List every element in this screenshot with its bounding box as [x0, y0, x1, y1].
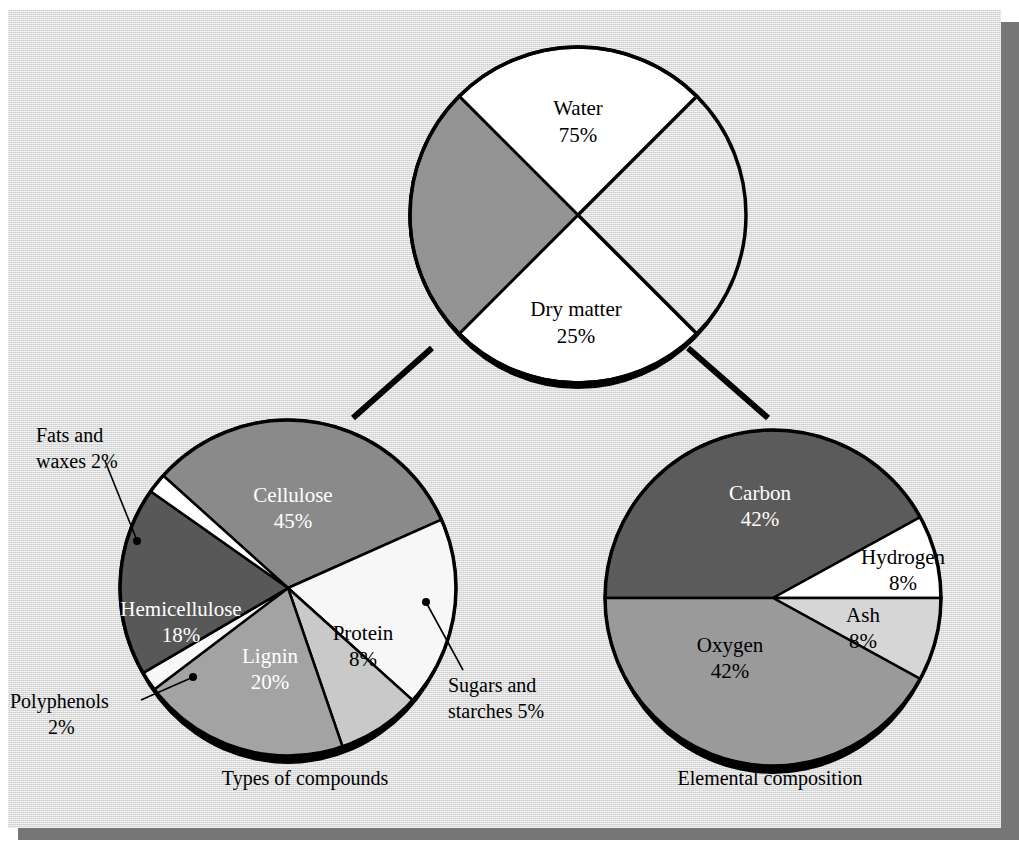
label-hemicellulose-value: 18% — [162, 623, 201, 647]
label-protein-value: 8% — [349, 647, 377, 671]
callout-fats-and-waxes: Fats and waxes 2% — [36, 424, 141, 545]
callout-polyphenols-line2: 2% — [48, 716, 75, 738]
callout-sugars-and-starches-line1: Sugars and — [448, 674, 536, 697]
label-dry-matter-value: 25% — [557, 324, 596, 348]
callout-line-fats-and-waxes — [105, 461, 136, 538]
callout-dot-sugars-and-starches — [422, 598, 430, 606]
callout-fats-and-waxes-line1: Fats and — [36, 424, 103, 446]
label-ash-value: 8% — [849, 629, 877, 653]
callout-dot-fats-and-waxes — [133, 537, 141, 545]
label-hemicellulose-name: Hemicellulose — [120, 597, 241, 621]
figure-root: Water 75% Dry matter 25% — [0, 0, 1019, 856]
label-water-name: Water — [553, 96, 603, 120]
label-oxygen-name: Oxygen — [697, 633, 764, 657]
label-water-value: 75% — [559, 123, 598, 147]
caption-types-of-compounds: Types of compounds — [222, 767, 389, 790]
label-dry-matter-name: Dry matter — [530, 297, 622, 321]
label-cellulose-value: 45% — [274, 509, 313, 533]
label-hydrogen-name: Hydrogen — [861, 545, 945, 569]
label-oxygen-value: 42% — [711, 659, 750, 683]
label-hydrogen-value: 8% — [889, 571, 917, 595]
callout-sugars-and-starches-line2: starches 5% — [448, 700, 544, 722]
caption-elemental-composition: Elemental composition — [678, 767, 863, 790]
callout-fats-and-waxes-line2: waxes 2% — [36, 450, 118, 472]
label-ash-name: Ash — [846, 603, 880, 627]
label-cellulose-name: Cellulose — [253, 483, 332, 507]
label-lignin-value: 20% — [251, 670, 290, 694]
label-lignin-name: Lignin — [242, 644, 298, 668]
callout-polyphenols-line1: Polyphenols — [10, 690, 109, 713]
pie-elemental-composition: Carbon 42% Oxygen 42% Hydrogen 8% Ash 8% — [605, 430, 945, 774]
label-carbon-value: 42% — [741, 507, 780, 531]
pie-charts-svg: Water 75% Dry matter 25% — [8, 10, 1001, 828]
pie-green-wood: Water 75% Dry matter 25% — [410, 47, 746, 389]
pie-types-of-compounds: Cellulose 45% Hemicellulose 18% Lignin 2… — [120, 420, 456, 764]
label-carbon-name: Carbon — [729, 481, 791, 505]
callout-dot-polyphenols — [189, 673, 197, 681]
label-protein-name: Protein — [333, 621, 394, 645]
figure-panel: Water 75% Dry matter 25% — [8, 10, 1001, 828]
